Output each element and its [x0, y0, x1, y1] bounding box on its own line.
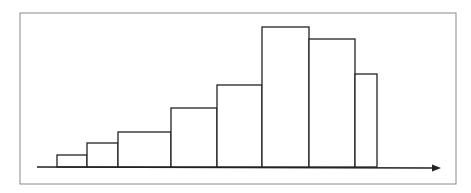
x-axis-arrow-icon — [432, 165, 441, 172]
histogram-bar — [57, 155, 87, 167]
histogram-bar — [87, 143, 118, 167]
histogram-bar — [355, 74, 377, 167]
bars-group — [57, 27, 377, 167]
histogram-chart — [0, 0, 471, 193]
histogram-bar — [262, 27, 309, 167]
histogram-bar — [217, 85, 262, 167]
histogram-bar — [118, 132, 171, 167]
histogram-bar — [309, 39, 355, 167]
histogram-bar — [171, 108, 217, 167]
x-axis — [37, 167, 434, 168]
